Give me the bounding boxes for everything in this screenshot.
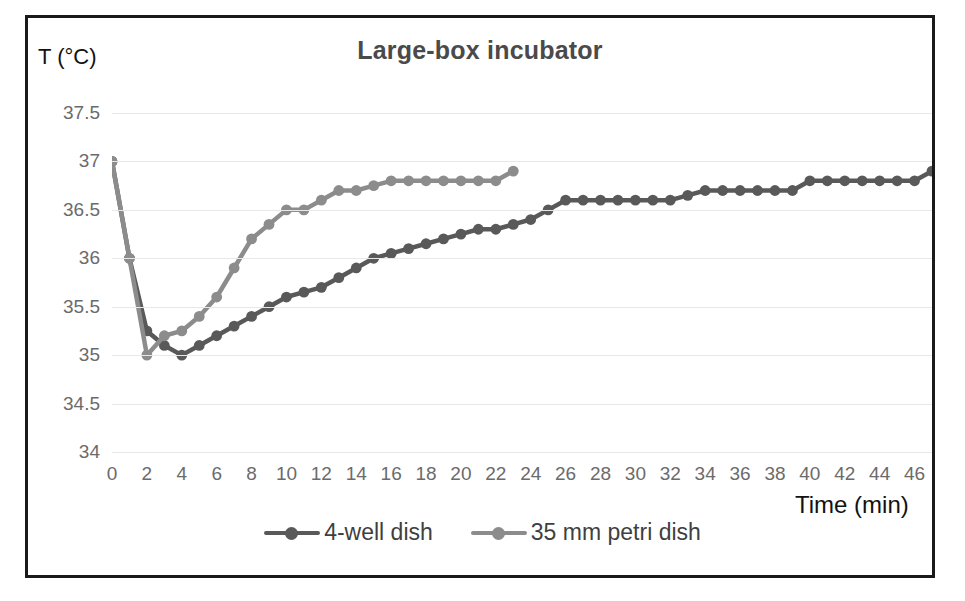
- series-point: [386, 175, 397, 186]
- series-point: [316, 282, 327, 293]
- series-point: [403, 175, 414, 186]
- series-point: [403, 243, 414, 254]
- y-tick-label: 35.5: [38, 296, 100, 318]
- series-point: [351, 185, 362, 196]
- plot-area: [112, 113, 932, 452]
- series-point: [630, 195, 641, 206]
- series-point: [299, 287, 310, 298]
- series-point: [735, 185, 746, 196]
- x-tick-label: 46: [904, 463, 925, 485]
- chart-legend: 4-well dish35 mm petri dish: [0, 519, 965, 546]
- x-tick-label: 0: [107, 463, 118, 485]
- y-axis-title: T (°C): [38, 44, 97, 70]
- series-point: [246, 311, 257, 322]
- series-point: [211, 292, 222, 303]
- series-point: [822, 175, 833, 186]
- y-tick-label: 34: [38, 441, 100, 463]
- legend-label: 35 mm petri dish: [531, 519, 701, 546]
- series-point: [874, 175, 885, 186]
- series-layer: [112, 113, 932, 452]
- x-tick-label: 42: [834, 463, 855, 485]
- series-point: [229, 321, 240, 332]
- x-tick-label: 12: [311, 463, 332, 485]
- series-point: [473, 224, 484, 235]
- series-point: [857, 175, 868, 186]
- series-point: [647, 195, 658, 206]
- x-tick-label: 24: [520, 463, 541, 485]
- series-point: [368, 180, 379, 191]
- series-point: [490, 224, 501, 235]
- x-tick-label: 6: [211, 463, 222, 485]
- gridline: [112, 210, 932, 211]
- y-tick-label: 35: [38, 344, 100, 366]
- legend-label: 4-well dish: [324, 519, 433, 546]
- series-point: [613, 195, 624, 206]
- x-tick-label: 16: [381, 463, 402, 485]
- series-point: [700, 185, 711, 196]
- series-point: [421, 175, 432, 186]
- series-point: [508, 219, 519, 230]
- series-point: [421, 238, 432, 249]
- series-point: [578, 195, 589, 206]
- series-point: [892, 175, 903, 186]
- x-tick-label: 44: [869, 463, 890, 485]
- series-point: [386, 248, 397, 259]
- series-point: [909, 175, 920, 186]
- series-point: [351, 263, 362, 274]
- y-tick-label: 34.5: [38, 393, 100, 415]
- series-point: [473, 175, 484, 186]
- series-point: [525, 214, 536, 225]
- x-tick-label: 28: [590, 463, 611, 485]
- x-tick-label: 30: [625, 463, 646, 485]
- series-point: [717, 185, 728, 196]
- x-tick-label: 20: [450, 463, 471, 485]
- series-point: [595, 195, 606, 206]
- series-point: [804, 175, 815, 186]
- gridline: [112, 161, 932, 162]
- legend-marker-icon: [471, 525, 527, 541]
- x-axis-tick-labels: 0246810121416182022242628303234363840424…: [112, 463, 952, 491]
- y-tick-label: 37: [38, 150, 100, 172]
- x-tick-label: 34: [695, 463, 716, 485]
- x-tick-label: 38: [764, 463, 785, 485]
- legend-marker-icon: [264, 525, 320, 541]
- series-point: [246, 234, 257, 245]
- gridline: [112, 258, 932, 259]
- x-tick-label: 14: [346, 463, 367, 485]
- x-tick-label: 40: [799, 463, 820, 485]
- gridline: [112, 355, 932, 356]
- series-point: [752, 185, 763, 196]
- x-tick-label: 10: [276, 463, 297, 485]
- legend-entry[interactable]: 4-well dish: [264, 519, 433, 546]
- y-axis-tick-labels: 37.53736.53635.53534.534: [38, 113, 100, 452]
- series-point: [229, 263, 240, 274]
- series-point: [787, 185, 798, 196]
- series-point: [176, 326, 187, 337]
- x-tick-label: 36: [730, 463, 751, 485]
- legend-entry[interactable]: 35 mm petri dish: [471, 519, 701, 546]
- series-point: [839, 175, 850, 186]
- x-axis-title: Time (min): [795, 491, 909, 519]
- y-tick-label: 36.5: [38, 199, 100, 221]
- y-tick-label: 37.5: [38, 102, 100, 124]
- x-tick-label: 32: [660, 463, 681, 485]
- series-point: [508, 166, 519, 177]
- series-point: [211, 330, 222, 341]
- series-point: [682, 190, 693, 201]
- y-tick-label: 36: [38, 247, 100, 269]
- series-point: [456, 175, 467, 186]
- series-point: [316, 195, 327, 206]
- series-point: [490, 175, 501, 186]
- series-point: [333, 272, 344, 283]
- series-point: [560, 195, 571, 206]
- series-point: [438, 234, 449, 245]
- series-point: [159, 330, 170, 341]
- series-point: [194, 340, 205, 351]
- x-tick-label: 2: [142, 463, 153, 485]
- series-point: [665, 195, 676, 206]
- chart-title: Large-box incubator: [140, 36, 820, 65]
- x-tick-label: 22: [485, 463, 506, 485]
- series-point: [333, 185, 344, 196]
- series-point: [194, 311, 205, 322]
- x-tick-label: 18: [415, 463, 436, 485]
